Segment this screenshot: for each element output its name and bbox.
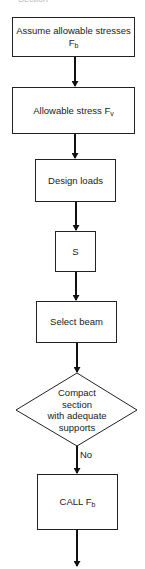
node-call-fb: CALL Fb — [37, 474, 118, 530]
node-section-modulus: S — [55, 231, 96, 272]
edge-label-no: No — [80, 449, 92, 460]
node-select-beam: Select beam — [36, 301, 117, 343]
node-allowable-stress: Allowable stress Fv — [12, 87, 135, 134]
node-design-loads: Design loads — [35, 159, 116, 202]
decision-label: Compact section with adequate supports — [30, 381, 124, 439]
node-assume-stress: Assume allowable stresses Fb — [12, 17, 135, 57]
